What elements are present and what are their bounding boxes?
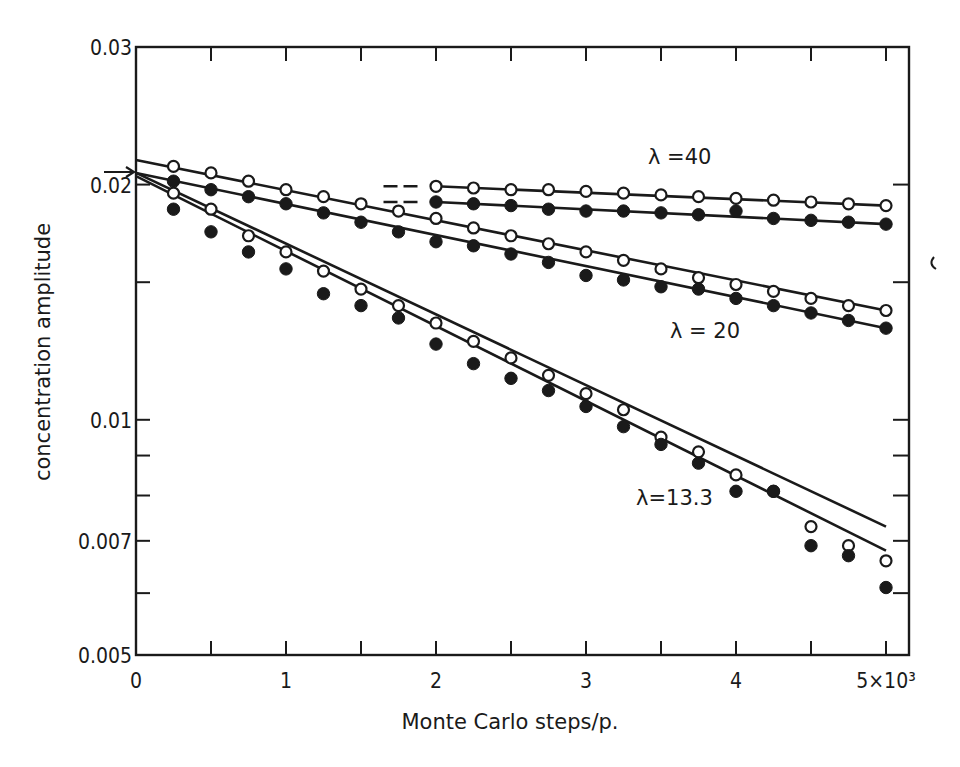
filled-circle-marker xyxy=(205,226,217,238)
chart: 012345×10³0.0050.0070.010.020.03 concent… xyxy=(0,0,960,767)
filled-circle-marker xyxy=(542,256,554,268)
filled-circle-marker xyxy=(655,207,667,219)
filled-circle-marker xyxy=(655,438,667,450)
open-circle-marker xyxy=(843,300,854,311)
open-circle-marker xyxy=(618,404,629,415)
open-circle-marker xyxy=(806,293,817,304)
filled-circle-marker xyxy=(842,549,854,561)
filled-circle-marker xyxy=(730,292,742,304)
open-circle-marker xyxy=(393,300,404,311)
filled-circle-marker xyxy=(730,485,742,497)
open-circle-marker xyxy=(581,388,592,399)
filled-circle-marker xyxy=(242,190,254,202)
x-tick-label: 2 xyxy=(430,669,442,693)
open-circle-marker xyxy=(581,246,592,257)
fit-line xyxy=(136,173,886,527)
open-circle-marker xyxy=(356,284,367,295)
filled-circle-marker xyxy=(805,214,817,226)
open-circle-marker xyxy=(693,191,704,202)
open-circle-marker xyxy=(431,181,442,192)
open-circle-marker xyxy=(468,182,479,193)
open-circle-marker xyxy=(806,196,817,207)
open-circle-marker xyxy=(168,161,179,172)
open-circle-marker xyxy=(318,266,329,277)
y-tick-label: 0.02 xyxy=(90,174,132,198)
annotation-lambda-40: λ =40 xyxy=(648,145,711,169)
filled-circle-marker xyxy=(167,203,179,215)
open-circle-marker xyxy=(543,370,554,381)
open-circle-marker xyxy=(768,195,779,206)
y-axis-title: concentration amplitude xyxy=(31,223,55,481)
open-circle-marker xyxy=(581,186,592,197)
x-tick-label: 1 xyxy=(280,669,292,693)
filled-circle-marker xyxy=(880,218,892,230)
open-circle-marker xyxy=(431,213,442,224)
y-tick-label: 0.01 xyxy=(90,409,132,433)
filled-circle-marker xyxy=(880,322,892,334)
filled-circle-marker xyxy=(430,338,442,350)
open-circle-marker xyxy=(206,167,217,178)
open-circle-marker xyxy=(656,189,667,200)
filled-circle-marker xyxy=(655,281,667,293)
filled-circle-marker xyxy=(355,299,367,311)
open-circle-marker xyxy=(431,318,442,329)
filled-circle-marker xyxy=(580,205,592,217)
open-circle-marker xyxy=(843,198,854,209)
open-circle-marker xyxy=(168,188,179,199)
open-circle-marker xyxy=(693,446,704,457)
x-tick-label: 0 xyxy=(130,669,142,693)
open-circle-marker xyxy=(693,272,704,283)
open-circle-marker xyxy=(506,352,517,363)
filled-circle-marker xyxy=(467,357,479,369)
open-circle-marker xyxy=(318,191,329,202)
filled-circle-marker xyxy=(767,485,779,497)
filled-circle-marker xyxy=(842,314,854,326)
x-axis-title: Monte Carlo steps/p. xyxy=(401,710,618,734)
stray-mark xyxy=(931,257,936,269)
x-tick-label: 3 xyxy=(580,669,592,693)
filled-circle-marker xyxy=(392,226,404,238)
open-circle-marker xyxy=(731,279,742,290)
filled-circle-marker xyxy=(280,263,292,275)
x-tick-label: 4 xyxy=(730,669,742,693)
open-circle-marker xyxy=(243,230,254,241)
filled-circle-marker xyxy=(692,209,704,221)
filled-circle-marker xyxy=(730,205,742,217)
filled-circle-marker xyxy=(580,400,592,412)
open-circle-marker xyxy=(543,184,554,195)
open-circle-marker xyxy=(356,198,367,209)
filled-circle-marker xyxy=(242,246,254,258)
open-circle-marker xyxy=(881,200,892,211)
open-circle-marker xyxy=(506,230,517,241)
filled-circle-marker xyxy=(167,175,179,187)
filled-circle-marker xyxy=(842,216,854,228)
open-circle-marker xyxy=(618,255,629,266)
open-circle-marker xyxy=(881,555,892,566)
filled-circle-marker xyxy=(430,236,442,248)
y-tick-label: 0.007 xyxy=(78,530,132,554)
open-circle-marker xyxy=(618,188,629,199)
open-circle-marker xyxy=(243,176,254,187)
open-circle-marker xyxy=(731,469,742,480)
filled-circle-marker xyxy=(542,384,554,396)
filled-circle-marker xyxy=(692,457,704,469)
filled-circle-marker xyxy=(505,199,517,211)
annotation-lambda-20: λ = 20 xyxy=(670,319,740,343)
tick-labels: 012345×10³0.0050.0070.010.020.03 xyxy=(78,36,916,693)
open-circle-marker xyxy=(281,246,292,257)
filled-circle-marker xyxy=(542,203,554,215)
filled-circle-marker xyxy=(317,207,329,219)
filled-circle-marker xyxy=(617,274,629,286)
open-circle-marker xyxy=(468,222,479,233)
filled-circle-marker xyxy=(617,420,629,432)
annotation-lambda-13-3: λ=13.3 xyxy=(636,486,713,510)
open-circle-marker xyxy=(468,336,479,347)
open-circle-marker xyxy=(543,238,554,249)
filled-circle-marker xyxy=(880,581,892,593)
filled-circle-marker xyxy=(617,205,629,217)
open-circle-marker xyxy=(206,204,217,215)
open-circle-marker xyxy=(881,305,892,316)
filled-circle-marker xyxy=(392,312,404,324)
axis-ticks xyxy=(136,47,909,655)
plot-frame xyxy=(136,47,909,655)
